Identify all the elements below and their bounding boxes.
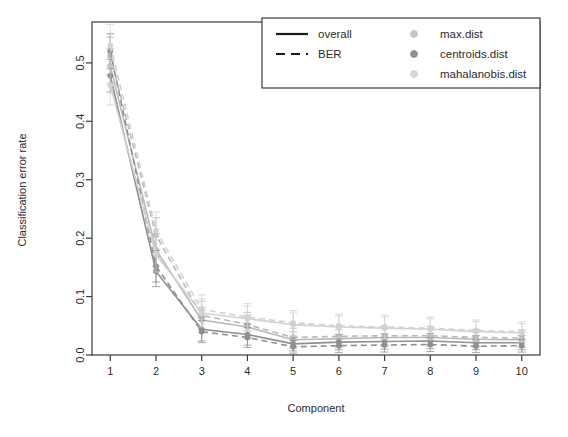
series-centroids-dist-overall [106,59,525,351]
series-line [110,66,521,340]
x-tick-label: 9 [473,365,479,377]
x-axis-label: Component [288,402,345,414]
y-tick-label: 0.1 [74,289,86,304]
legend-label-centroids-dist: centroids.dist [440,48,509,60]
series-max-dist-overall [106,48,525,348]
x-tick-label: 3 [199,365,205,377]
legend-label-overall: overall [318,28,352,40]
legend-label-ber: BER [318,48,342,60]
legend-dot-centroids-dist [411,51,418,58]
legend-dot-mahalanobis-dist [411,71,418,78]
y-axis-ticks: 0.00.10.20.30.40.5 [74,55,92,362]
chart-page: 0.00.10.20.30.40.5 12345678910 overallBE… [0,0,568,437]
x-tick-label: 1 [107,365,113,377]
series-line [110,76,521,344]
x-tick-label: 8 [427,365,433,377]
x-tick-label: 10 [516,365,528,377]
x-tick-label: 2 [153,365,159,377]
series-markers [108,73,525,346]
y-tick-label: 0.4 [74,114,86,129]
error-bars [106,48,525,348]
y-axis-label: Classification error rate [16,133,28,246]
classification-error-rate-chart: 0.00.10.20.30.40.5 12345678910 overallBE… [0,0,568,437]
series-line [110,51,521,347]
series-markers [108,53,525,340]
series-line [110,56,521,338]
legend-dot-max-dist [411,31,418,38]
series-markers [108,49,525,350]
error-bars [106,59,525,351]
y-tick-label: 0.2 [74,231,86,246]
series-mahalanobis-dist-overall [106,65,525,342]
x-axis-ticks: 12345678910 [107,355,528,377]
y-tick-label: 0.3 [74,172,86,187]
series-line [110,85,521,333]
series-markers [108,63,525,342]
chart-legend: overallBERmax.distcentroids.distmahalano… [262,18,540,88]
x-tick-label: 5 [290,365,296,377]
y-tick-label: 0.0 [74,347,86,362]
x-tick-label: 4 [244,365,250,377]
error-bars [106,65,525,342]
x-tick-label: 6 [336,365,342,377]
series-markers [108,82,525,335]
legend-label-max-dist: max.dist [440,28,484,40]
y-tick-label: 0.5 [74,55,86,70]
x-tick-label: 7 [382,365,388,377]
legend-label-mahalanobis-dist: mahalanobis.dist [440,68,527,80]
